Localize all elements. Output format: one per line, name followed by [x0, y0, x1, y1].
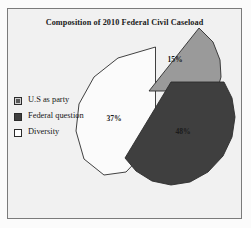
- legend-item-diversity[interactable]: Diversity: [14, 127, 100, 137]
- legend-item-federal-question[interactable]: Federal question: [14, 111, 100, 121]
- legend-label-us-as-party: U.S as party: [28, 95, 69, 105]
- pie-label-diversity: 37%: [106, 114, 121, 123]
- plot-area: Composition of 2010 Federal Civil Caselo…: [7, 8, 242, 219]
- legend-swatch-us-as-party: [14, 97, 22, 105]
- legend-swatch-diversity: [14, 129, 22, 137]
- chart-figure: Composition of 2010 Federal Civil Caselo…: [0, 0, 251, 228]
- chart-legend: U.S as party Federal question Diversity: [14, 95, 100, 143]
- legend-label-federal-question: Federal question: [28, 111, 84, 121]
- pie-label-federal-question: 48%: [175, 127, 190, 136]
- legend-item-us-as-party[interactable]: U.S as party: [14, 95, 100, 105]
- legend-label-diversity: Diversity: [28, 127, 59, 137]
- pie-label-us-as-party: 15%: [167, 55, 182, 64]
- legend-swatch-federal-question: [14, 113, 22, 121]
